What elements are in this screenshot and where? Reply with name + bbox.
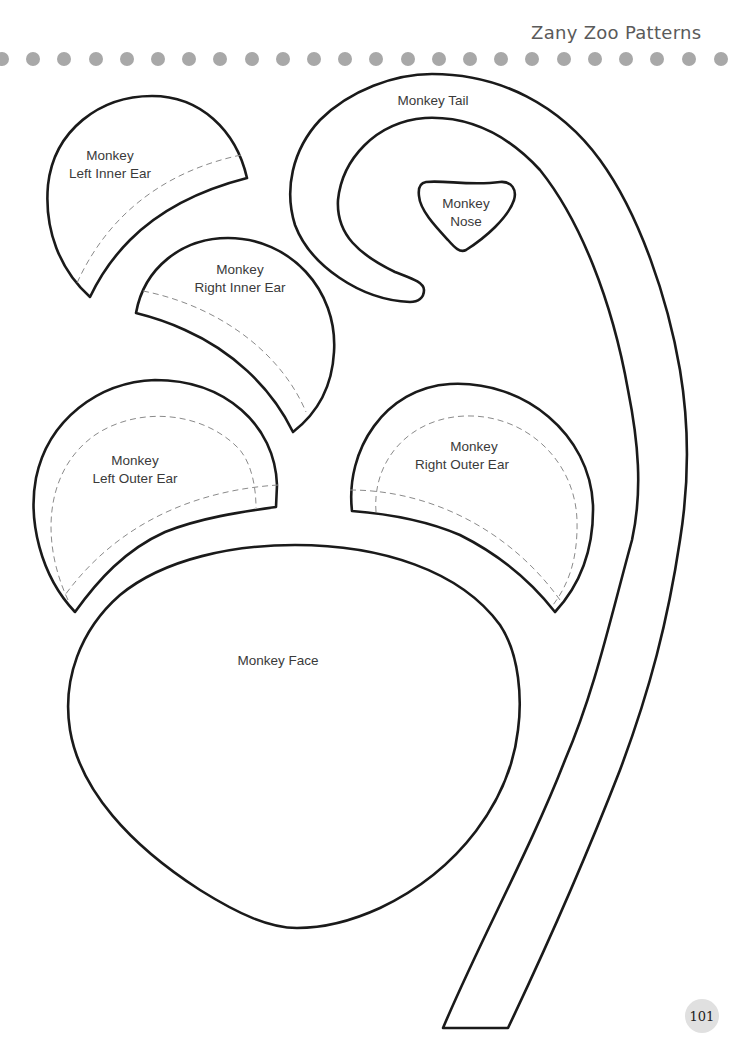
tail-label: Monkey Tail — [397, 93, 468, 108]
monkey-face-pattern: Monkey Face — [68, 545, 520, 928]
monkey-nose-pattern: Monkey Nose — [419, 182, 515, 251]
left-outer-ear-label-line2: Left Outer Ear — [93, 471, 178, 486]
right-inner-ear-label-line2: Right Inner Ear — [195, 280, 286, 295]
dotted-divider — [0, 52, 728, 66]
face-label: Monkey Face — [237, 653, 318, 668]
right-outer-ear-label-line2: Right Outer Ear — [415, 457, 509, 472]
left-inner-ear-label-line2: Left Inner Ear — [69, 166, 151, 181]
pattern-artwork: Monkey Tail Monkey Nose Monkey Left Inne… — [0, 0, 735, 1042]
page-number: 101 — [690, 1009, 715, 1024]
left-outer-ear-label-line1: Monkey — [111, 453, 159, 468]
nose-label-line2: Nose — [450, 214, 482, 229]
page-number-badge: 101 — [685, 999, 719, 1033]
pattern-page: Zany Zoo Patterns Monkey Tail Monkey Nos… — [0, 0, 735, 1042]
nose-label-line1: Monkey — [442, 196, 490, 211]
right-inner-ear-label-line1: Monkey — [216, 262, 264, 277]
right-outer-ear-label-line1: Monkey — [450, 439, 498, 454]
left-inner-ear-label-line1: Monkey — [86, 148, 134, 163]
